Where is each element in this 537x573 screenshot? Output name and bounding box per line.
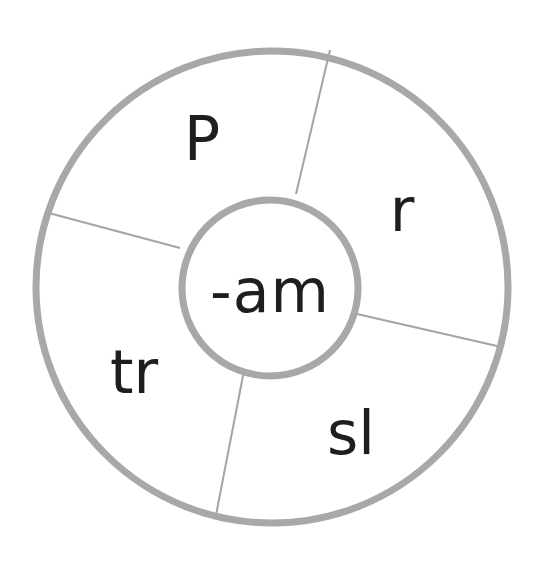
segment-onset-p: P	[184, 109, 220, 169]
divider-right	[357, 314, 497, 346]
segment-onset-tr: tr	[110, 342, 158, 402]
center-word-ending: -am	[210, 261, 330, 321]
segment-onset-sl: sl	[327, 403, 375, 463]
divider-left	[45, 212, 180, 248]
segment-onset-r: r	[390, 180, 415, 240]
divider-top	[296, 50, 330, 194]
